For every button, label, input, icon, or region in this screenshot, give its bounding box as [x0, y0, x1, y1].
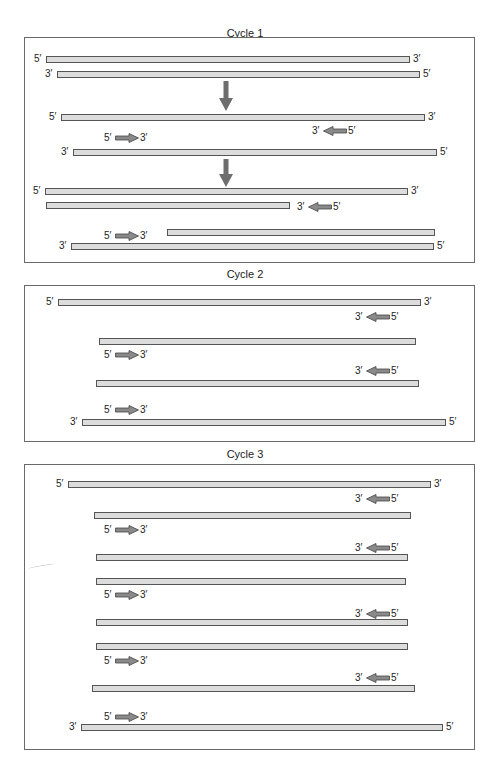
dna-strand — [94, 512, 411, 519]
primer-forward: 5′3′ — [104, 405, 164, 417]
primer-end-label: 3′ — [140, 231, 147, 241]
strand-end-label: 3′ — [61, 147, 68, 157]
primer-reverse: 3′5′ — [355, 366, 415, 378]
primer-end-label: 3′ — [355, 494, 362, 504]
primer-forward: 5′3′ — [104, 712, 164, 724]
primer-forward: 5′3′ — [104, 656, 164, 668]
dna-strand — [46, 56, 410, 63]
strand-end-label: 5′ — [446, 722, 453, 732]
dna-strand — [45, 188, 408, 195]
dna-strand — [167, 229, 435, 236]
primer-end-label: 5′ — [104, 712, 111, 722]
dna-strand — [82, 419, 446, 426]
primer-reverse: 3′5′ — [355, 543, 415, 555]
cycle-3-title: Cycle 3 — [145, 448, 345, 460]
primer-reverse: 3′5′ — [355, 312, 415, 324]
primer-end-label: 5′ — [391, 609, 398, 619]
primer-reverse: 3′5′ — [355, 494, 415, 506]
primer-end-label: 3′ — [355, 312, 362, 322]
primer-forward: 5′3′ — [104, 231, 164, 243]
cycle-2-title: Cycle 2 — [145, 268, 345, 280]
strand-end-label: 3′ — [411, 186, 418, 196]
dna-strand — [96, 578, 406, 585]
strand-end-label: 5′ — [33, 186, 40, 196]
arrow-right-icon — [115, 133, 139, 143]
primer-end-label: 5′ — [104, 590, 111, 600]
primer-end-label: 5′ — [391, 673, 398, 683]
arrow-right-icon — [115, 350, 139, 360]
primer-end-label: 5′ — [333, 202, 340, 212]
arrow-left-icon — [366, 543, 390, 553]
dna-strand — [96, 380, 419, 387]
strand-end-label: 5′ — [440, 147, 447, 157]
dna-strand — [46, 202, 290, 209]
primer-end-label: 3′ — [140, 405, 147, 415]
arrow-left-icon — [366, 494, 390, 504]
primer-forward: 5′3′ — [104, 133, 164, 145]
strand-end-label: 3′ — [70, 417, 77, 427]
arrow-left-icon — [323, 126, 347, 136]
strand-end-label: 3′ — [424, 297, 431, 307]
dna-strand — [61, 114, 425, 121]
primer-end-label: 3′ — [140, 656, 147, 666]
primer-end-label: 5′ — [104, 231, 111, 241]
primer-reverse: 3′5′ — [355, 609, 415, 621]
strand-end-label: 3′ — [413, 54, 420, 64]
primer-end-label: 3′ — [140, 133, 147, 143]
arrow-right-icon — [115, 590, 139, 600]
strand-end-label: 3′ — [69, 722, 76, 732]
strand-end-label: 5′ — [56, 479, 63, 489]
arrow-left-icon — [366, 366, 390, 376]
arrow-left-icon — [308, 202, 332, 212]
dna-strand — [73, 149, 437, 156]
primer-end-label: 3′ — [297, 202, 304, 212]
dna-strand — [96, 554, 408, 561]
dna-strand — [81, 724, 443, 731]
primer-forward: 5′3′ — [104, 350, 164, 362]
primer-end-label: 3′ — [140, 712, 147, 722]
strand-end-label: 5′ — [423, 69, 430, 79]
down-arrow-icon — [219, 159, 233, 187]
strand-end-label: 3′ — [59, 241, 66, 251]
strand-end-label: 5′ — [34, 54, 41, 64]
dna-strand — [92, 685, 415, 692]
primer-reverse: 3′5′ — [297, 202, 357, 214]
primer-end-label: 3′ — [140, 525, 147, 535]
dna-strand — [58, 299, 421, 306]
strand-end-label: 5′ — [449, 417, 456, 427]
primer-reverse: 3′5′ — [312, 126, 372, 138]
primer-end-label: 5′ — [391, 543, 398, 553]
strand-end-label: 3′ — [434, 479, 441, 489]
primer-end-label: 3′ — [355, 366, 362, 376]
arrow-left-icon — [366, 312, 390, 322]
primer-end-label: 3′ — [140, 350, 147, 360]
primer-end-label: 5′ — [104, 525, 111, 535]
strand-end-label: 5′ — [46, 297, 53, 307]
primer-end-label: 5′ — [104, 405, 111, 415]
dna-strand — [99, 338, 416, 345]
strand-end-label: 5′ — [437, 241, 444, 251]
arrow-right-icon — [115, 712, 139, 722]
primer-forward: 5′3′ — [104, 525, 164, 537]
strand-end-label: 3′ — [45, 69, 52, 79]
cycle-3-panel — [24, 464, 475, 750]
primer-end-label: 5′ — [391, 366, 398, 376]
strand-end-label: 5′ — [49, 112, 56, 122]
dna-strand — [96, 643, 408, 650]
arrow-right-icon — [115, 405, 139, 415]
dna-strand — [71, 243, 434, 250]
primer-end-label: 3′ — [355, 609, 362, 619]
primer-end-label: 5′ — [348, 126, 355, 136]
primer-end-label: 5′ — [391, 312, 398, 322]
primer-end-label: 3′ — [140, 590, 147, 600]
primer-end-label: 5′ — [104, 350, 111, 360]
dna-strand — [57, 71, 420, 78]
primer-end-label: 5′ — [391, 494, 398, 504]
arrow-right-icon — [115, 525, 139, 535]
primer-forward: 5′3′ — [104, 590, 164, 602]
primer-end-label: 5′ — [104, 133, 111, 143]
arrow-right-icon — [115, 656, 139, 666]
primer-reverse: 3′5′ — [355, 673, 415, 685]
primer-end-label: 3′ — [355, 543, 362, 553]
arrow-left-icon — [366, 673, 390, 683]
